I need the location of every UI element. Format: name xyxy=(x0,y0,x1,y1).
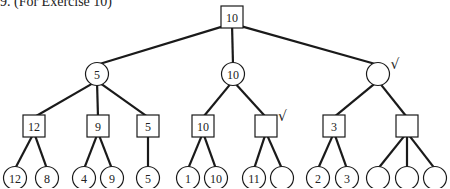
min-node-b: 10 xyxy=(222,63,245,86)
tree-edge xyxy=(84,133,98,169)
node-value: 10 xyxy=(226,11,238,25)
node-value: 9 xyxy=(109,172,115,186)
tree-edge xyxy=(378,133,407,169)
tree-edge xyxy=(15,133,34,169)
max-node-root: 10 xyxy=(221,6,243,28)
tree-edge xyxy=(334,133,347,169)
min-node-l5: 5 xyxy=(137,167,160,189)
node-value: 2 xyxy=(315,172,321,186)
node-value: 10 xyxy=(210,172,222,186)
square-node-icon xyxy=(396,115,418,137)
node-value: 10 xyxy=(227,68,239,82)
min-node-l12 xyxy=(367,167,390,189)
tree-edge xyxy=(232,24,233,65)
min-node-c: √ xyxy=(367,56,400,86)
min-node-l7: 10 xyxy=(205,167,228,189)
max-node-c1: 3 xyxy=(323,115,345,137)
tree-edge xyxy=(232,24,378,65)
tree-edge xyxy=(188,133,203,169)
circle-node-icon xyxy=(367,167,390,189)
min-node-a: 5 xyxy=(86,63,109,86)
max-node-a3: 5 xyxy=(137,115,159,137)
node-value: 5 xyxy=(145,172,151,186)
min-node-l2: 8 xyxy=(36,167,59,189)
circle-node-icon xyxy=(271,167,294,189)
min-node-l9 xyxy=(271,167,294,189)
tree-edge xyxy=(254,133,266,169)
checkmark-icon: √ xyxy=(391,56,400,72)
node-value: 8 xyxy=(44,172,50,186)
tree-edge xyxy=(203,81,233,117)
node-value: 12 xyxy=(9,172,21,186)
circle-node-icon xyxy=(367,63,390,86)
tree-edge xyxy=(97,81,98,117)
node-value: 11 xyxy=(248,172,260,186)
node-value: 1 xyxy=(185,172,191,186)
tree-edges xyxy=(15,24,435,169)
min-node-l11: 3 xyxy=(336,167,359,189)
min-node-l8: 11 xyxy=(243,167,266,189)
max-node-a2: 9 xyxy=(87,115,109,137)
checkmark-icon: √ xyxy=(278,108,287,124)
tree-edge xyxy=(233,81,266,117)
min-node-l6: 1 xyxy=(177,167,200,189)
min-node-l13 xyxy=(396,167,419,189)
tree-edge xyxy=(318,133,334,169)
tree-edge xyxy=(378,81,407,117)
square-node-icon xyxy=(255,115,277,137)
circle-node-icon xyxy=(396,167,419,189)
circle-node-icon xyxy=(424,167,447,189)
max-node-a1: 12 xyxy=(23,115,45,137)
max-node-b1: 10 xyxy=(192,115,214,137)
node-value: 12 xyxy=(28,120,40,134)
max-node-c2 xyxy=(396,115,418,137)
node-value: 3 xyxy=(331,120,337,134)
tree-edge xyxy=(203,133,216,169)
tree-edge xyxy=(97,81,148,117)
node-value: 4 xyxy=(81,172,87,186)
node-value: 5 xyxy=(94,68,100,82)
tree-edge xyxy=(266,133,282,169)
min-node-l14 xyxy=(424,167,447,189)
min-node-l1: 12 xyxy=(4,167,27,189)
tree-edge xyxy=(34,81,97,117)
tree-edge xyxy=(407,133,435,169)
max-node-b2: √ xyxy=(255,108,287,137)
tree-edge xyxy=(334,81,378,117)
node-value: 10 xyxy=(197,120,209,134)
node-value: 9 xyxy=(95,120,101,134)
min-node-l4: 9 xyxy=(101,167,124,189)
tree-edge xyxy=(98,133,112,169)
game-tree-diagram: 10510√129510√31284951101123 xyxy=(0,0,450,188)
tree-edge xyxy=(34,133,47,169)
min-node-l3: 4 xyxy=(73,167,96,189)
node-value: 5 xyxy=(145,120,151,134)
node-value: 3 xyxy=(344,172,350,186)
tree-edge xyxy=(97,24,232,65)
min-node-l10: 2 xyxy=(307,167,330,189)
